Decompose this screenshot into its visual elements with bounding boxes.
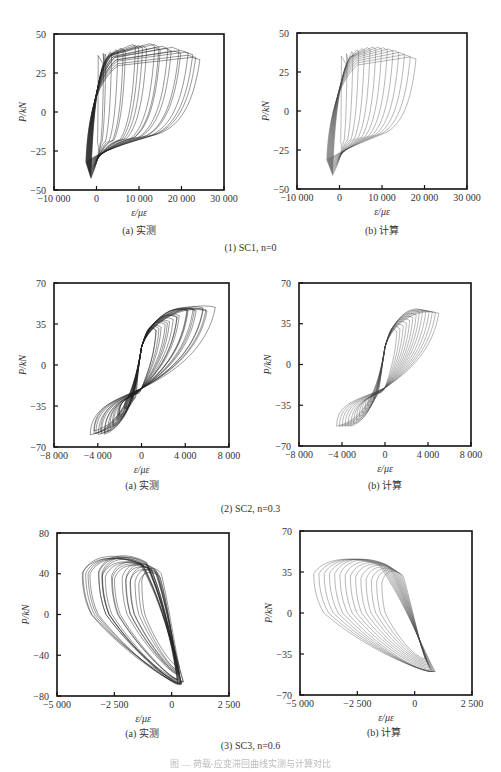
chart-sc3-measured: −5 000−2 50002 50080400−40−80ε/μεP/kN (a… [0, 0, 250, 760]
x-tick-label: −2 500 [100, 699, 128, 710]
plot-frame [57, 533, 229, 696]
x-tick-label: 0 [412, 698, 417, 709]
subplot-caption: (a) 实测 [92, 725, 192, 740]
y-tick-label: 80 [39, 528, 49, 539]
group-caption-sc3: (3) SC3, n=0.6 [0, 740, 501, 751]
chart-sc3-calculated: −5 000−2 50002 50070350−35−70ε/μεP/kN (b… [250, 0, 501, 760]
y-tick-label: −70 [276, 690, 292, 701]
y-tick-label: 70 [282, 526, 292, 537]
subplot-caption: (b) 计算 [334, 724, 434, 739]
y-tick-label: 0 [287, 608, 292, 619]
plot-svg: −5 000−2 50002 50080400−40−80ε/μεP/kN [0, 0, 250, 760]
figure-caption: 图 — 荷载-应变滞回曲线实测与计算对比 [0, 757, 501, 770]
y-tick-label: −40 [33, 650, 49, 661]
x-tick-label: 2 500 [461, 698, 484, 709]
plot-svg: −5 000−2 50002 50070350−35−70ε/μεP/kN [250, 0, 501, 760]
plot-frame [300, 531, 472, 695]
y-axis-title: P/kN [263, 602, 274, 624]
x-tick-label: 2 500 [218, 699, 241, 710]
x-axis-title: ε/με [135, 713, 151, 724]
x-tick-label: 0 [169, 699, 174, 710]
y-tick-label: 35 [282, 567, 292, 578]
y-axis-title: P/kN [20, 603, 31, 625]
x-tick-label: −2 500 [343, 698, 371, 709]
y-tick-label: −35 [276, 649, 292, 660]
x-axis-title: ε/με [378, 712, 394, 723]
y-tick-label: 0 [44, 609, 49, 620]
y-tick-label: −80 [33, 691, 49, 702]
y-tick-label: 40 [39, 568, 49, 579]
